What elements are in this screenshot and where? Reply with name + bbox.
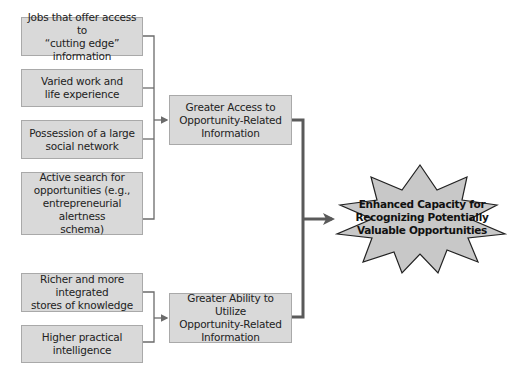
input-label: Varied work and life experience: [41, 75, 123, 101]
outcome-label: Enhanced Capacity for Recognizing Potent…: [352, 198, 492, 237]
input-box-knowledge-stores: Richer and more integrated stores of kno…: [21, 273, 143, 312]
mediator-connector: [292, 120, 332, 317]
mediator-label: Greater Ability to Utilize Opportunity-R…: [174, 292, 287, 344]
mediator-box-greater-ability: Greater Ability to Utilize Opportunity-R…: [169, 293, 292, 343]
mediator-box-greater-access: Greater Access to Opportunity-Related In…: [169, 95, 292, 145]
input-label: Active search for opportunities (e.g., e…: [26, 171, 138, 236]
input-label: Higher practical intelligence: [42, 331, 122, 357]
input-box-active-search: Active search for opportunities (e.g., e…: [21, 172, 143, 235]
mediator-label: Greater Access to Opportunity-Related In…: [179, 101, 282, 140]
input-label: Jobs that offer access to “cutting edge”…: [26, 11, 138, 63]
input-box-practical-intelligence: Higher practical intelligence: [21, 325, 143, 363]
input-box-cutting-edge-jobs: Jobs that offer access to “cutting edge”…: [21, 17, 143, 56]
access-group-connector: [143, 36, 167, 219]
ability-group-connector: [143, 292, 167, 342]
input-box-varied-experience: Varied work and life experience: [21, 69, 143, 107]
input-label: Possession of a large social network: [29, 127, 135, 153]
input-box-social-network: Possession of a large social network: [21, 120, 143, 159]
input-label: Richer and more integrated stores of kno…: [26, 273, 138, 312]
